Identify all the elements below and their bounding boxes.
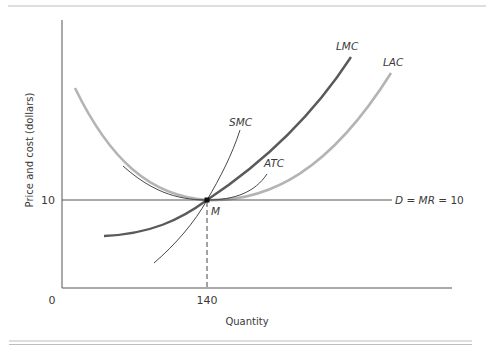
smc-curve xyxy=(154,130,240,263)
demand-mr: MR xyxy=(419,194,435,206)
cost-curves-chart: LMC LAC SMC ATC M D = MR = 10 10 0 140 Q… xyxy=(0,0,486,354)
lmc-label: LMC xyxy=(336,40,359,52)
y-tick-10: 10 xyxy=(41,194,55,207)
x-axis-title: Quantity xyxy=(225,316,268,327)
lmc-curve xyxy=(104,57,351,236)
point-m-label: M xyxy=(211,205,220,217)
lac-label: LAC xyxy=(383,56,404,68)
point-m-marker xyxy=(205,198,210,203)
atc-label: ATC xyxy=(263,157,285,169)
x-tick-0: 0 xyxy=(49,294,56,307)
demand-label: D = MR = 10 xyxy=(395,194,464,206)
x-tick-140: 140 xyxy=(197,294,218,307)
y-axis-title: Price and cost (dollars) xyxy=(24,93,35,208)
demand-d: D xyxy=(395,194,403,206)
smc-label: SMC xyxy=(229,116,253,128)
demand-eq2: = 10 xyxy=(438,194,464,206)
demand-eq1: = xyxy=(406,194,415,206)
